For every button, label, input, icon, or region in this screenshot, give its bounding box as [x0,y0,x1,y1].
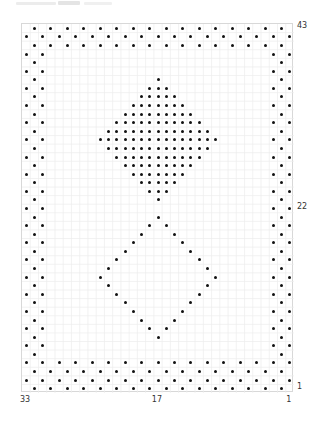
pattern-dot [214,27,217,30]
pattern-dot [239,379,242,382]
pattern-dot [132,147,135,150]
pattern-dot [148,113,151,116]
pattern-dot [165,224,168,227]
pattern-dot [280,130,283,133]
pattern-dot [33,267,36,270]
dot-pattern-chart [21,23,293,392]
pattern-dot [132,310,135,313]
pattern-dot [173,233,176,236]
pattern-dot [124,164,127,167]
pattern-dot [140,233,143,236]
pattern-dot [132,387,135,390]
pattern-dot [173,173,176,176]
pattern-dot [157,173,160,176]
pattern-dot [41,87,44,90]
pattern-dot [25,173,28,176]
pattern-dot [165,370,168,373]
pattern-dot [198,156,201,159]
pattern-dot [165,156,168,159]
pattern-dot [173,104,176,107]
pattern-dot [140,379,143,382]
pattern-dot [25,379,28,382]
pattern-dot [198,293,201,296]
pattern-dot [107,147,110,150]
pattern-dot [91,379,94,382]
row-label: 1 [297,382,302,392]
pattern-dot [264,387,267,390]
pattern-dot [66,27,69,30]
pattern-dot [140,113,143,116]
pattern-dot [107,379,110,382]
pattern-dot [140,173,143,176]
pattern-dot [33,27,36,30]
pattern-dot [41,173,44,176]
pattern-dot [99,370,102,373]
pattern-dot [157,216,160,219]
pattern-dot [25,344,28,347]
pattern-dot [264,27,267,30]
pattern-dot [198,27,201,30]
pattern-dot [33,319,36,322]
pattern-dot [132,370,135,373]
pattern-dot [165,121,168,124]
pattern-dot [124,113,127,116]
pattern-dot [157,78,160,81]
pattern-dot [99,44,102,47]
pattern-dot [272,173,275,176]
pattern-dot [280,319,283,322]
pattern-dot [165,327,168,330]
pattern-dot [280,216,283,219]
pattern-dot [272,310,275,313]
pattern-dot [124,250,127,253]
pattern-dot [124,130,127,133]
pattern-dot [41,276,44,279]
pattern-dot [25,87,28,90]
pattern-dot [148,156,151,159]
pattern-dot [206,130,209,133]
pattern-dot [25,104,28,107]
pattern-dot [181,156,184,159]
pattern-dot [280,233,283,236]
pattern-dot [173,156,176,159]
pattern-dot [165,190,168,193]
pattern-dot [33,164,36,167]
faint-header-fragment [84,2,112,5]
pattern-dot [206,147,209,150]
pattern-dot [173,130,176,133]
pattern-dot [272,156,275,159]
pattern-dot [140,130,143,133]
pattern-dot [25,224,28,227]
pattern-dot [66,44,69,47]
pattern-dot [157,87,160,90]
pattern-dot [214,276,217,279]
pattern-dot [206,267,209,270]
pattern-dot [41,190,44,193]
pattern-dot [165,164,168,167]
pattern-dot [157,147,160,150]
pattern-dot [165,147,168,150]
pattern-dot [272,327,275,330]
pattern-dot [124,147,127,150]
pattern-dot [41,156,44,159]
pattern-dot [272,190,275,193]
faint-header-fragment [58,1,80,5]
pattern-dot [33,336,36,339]
pattern-dot [157,164,160,167]
pattern-dot [25,156,28,159]
column-label: 33 [20,395,30,405]
pattern-dot [280,353,283,356]
pattern-dot [132,164,135,167]
pattern-dot [272,70,275,73]
pattern-dot [231,27,234,30]
pattern-dot [198,121,201,124]
pattern-dot [33,370,36,373]
column-label: 1 [286,395,291,405]
pattern-dot [181,173,184,176]
pattern-dot [165,130,168,133]
pattern-dot [25,121,28,124]
pattern-dot [124,121,127,124]
pattern-dot [157,190,160,193]
column-label: 17 [152,395,162,405]
pattern-dot [33,44,36,47]
pattern-dot [33,61,36,64]
